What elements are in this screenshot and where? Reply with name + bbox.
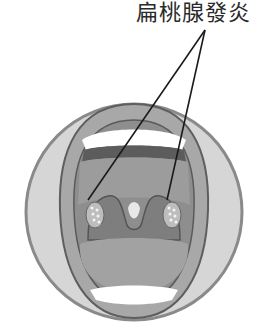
left-tonsil bbox=[86, 202, 104, 228]
lower-teeth bbox=[90, 286, 178, 305]
right-tonsil bbox=[163, 202, 181, 228]
open-mouth-tonsillitis-illustration bbox=[0, 0, 269, 328]
